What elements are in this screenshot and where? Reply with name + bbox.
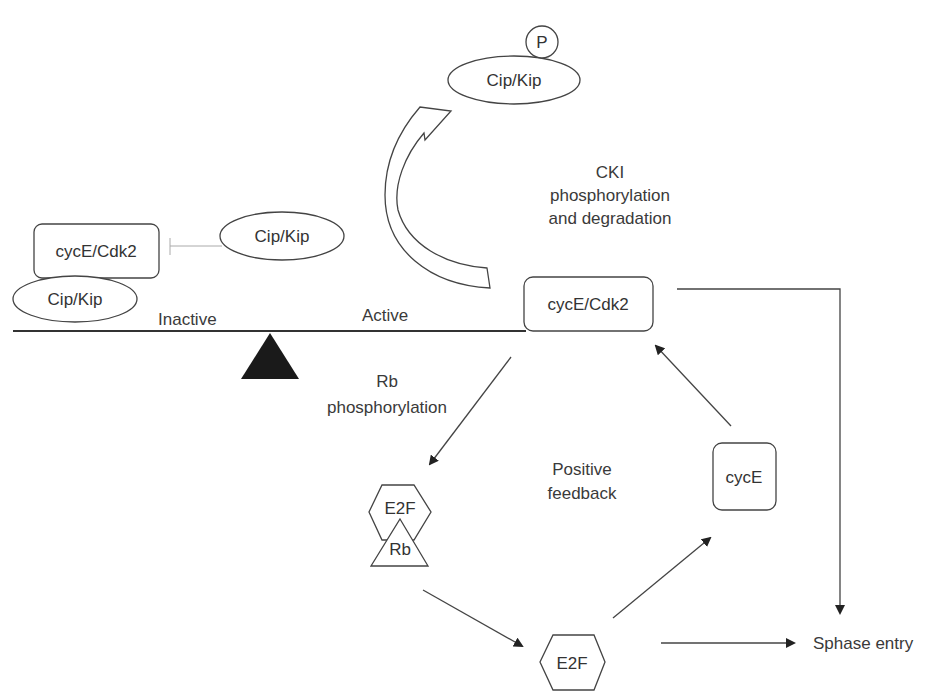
cyce-label: cycE (726, 468, 763, 487)
active-label: Active (362, 304, 408, 327)
e2f-to-cyce-arrow (613, 538, 710, 618)
cyce-to-cdk2-arrow (656, 346, 731, 426)
cyce-cdk2-active-label: cycE/Cdk2 (547, 295, 628, 314)
cki-label-line2: phosphorylation (530, 184, 690, 207)
cyce-cdk2-inactive-label: cycE/Cdk2 (55, 242, 136, 261)
e2f-free-label: E2F (556, 654, 587, 673)
rb-phospho-line2: phosphorylation (310, 396, 464, 419)
inactive-label: Inactive (158, 308, 217, 331)
positive-feedback-line2: feedback (532, 482, 632, 505)
rb-phospho-line1: Rb (337, 370, 437, 393)
rb-label: Rb (389, 540, 411, 559)
cip-kip-phospho-label: Cip/Kip (487, 71, 542, 90)
e2f-bound-label: E2F (384, 499, 415, 518)
cip-kip-free-label: Cip/Kip (255, 227, 310, 246)
curved-degradation-arrow (385, 107, 490, 288)
sphase-entry-label: Sphase entry (813, 632, 913, 655)
phosphate-label: P (536, 33, 547, 52)
positive-feedback-line1: Positive (532, 458, 632, 481)
cki-label-line3: and degradation (530, 207, 690, 230)
cip-kip-bound-label: Cip/Kip (48, 290, 103, 309)
cki-label-line1: CKI (560, 161, 660, 184)
fulcrum-triangle (241, 333, 299, 379)
release-e2f-arrow (423, 590, 522, 646)
pathway-diagram: cycE/Cdk2 Cip/Kip Cip/Kip Cip/Kip P cycE… (0, 0, 942, 697)
